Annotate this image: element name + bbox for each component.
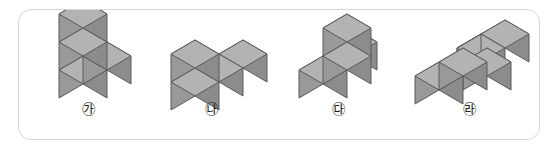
- figure-label-ra: ㉱: [399, 103, 539, 117]
- figure-label-ga: ㉮: [29, 103, 147, 117]
- cube-figure-ra: [399, 10, 539, 110]
- figure-group-na: ㉯: [147, 10, 275, 141]
- cube-figure-na: [147, 10, 275, 110]
- figure-group-ra: ㉱: [399, 10, 539, 141]
- figure-label-na: ㉯: [147, 103, 275, 117]
- figure-label-da: ㉰: [277, 103, 399, 117]
- figure-panel: ㉮ ㉯: [18, 9, 540, 140]
- cube-figure-ga: [29, 10, 147, 110]
- figure-group-ga: ㉮: [29, 10, 147, 141]
- cube-figure-da: [277, 10, 399, 110]
- figure-group-da: ㉰: [277, 10, 399, 141]
